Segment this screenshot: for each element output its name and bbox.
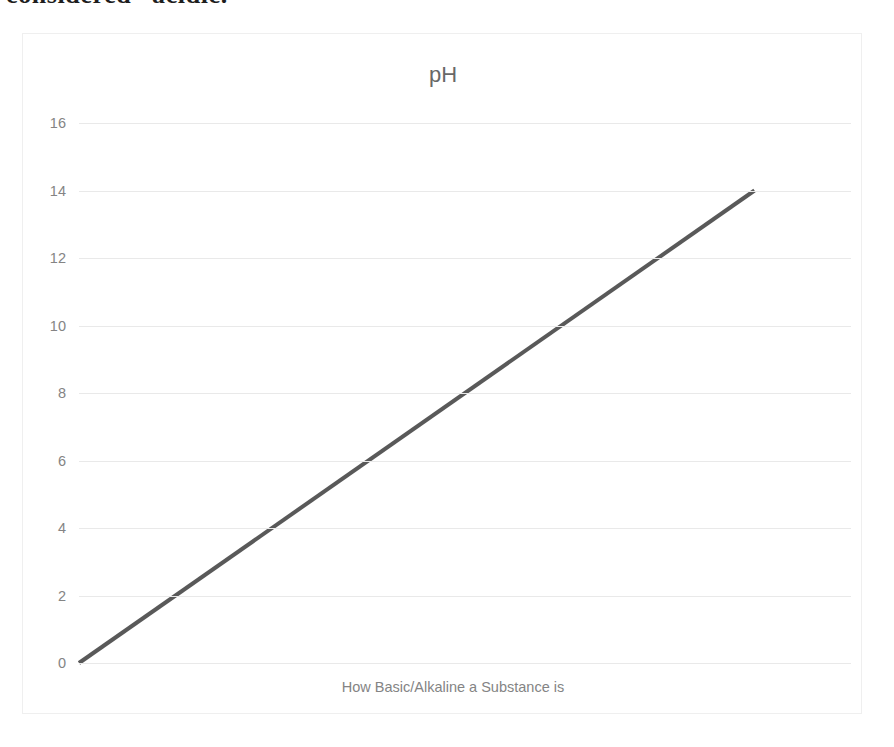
- document-text-line: considered “acidic.”: [6, 0, 241, 10]
- chart-container: pH 0246810121416 How Basic/Alkaline a Su…: [22, 33, 862, 714]
- y-axis-tick-label: 2: [58, 588, 66, 604]
- gridline-y-4: [79, 528, 851, 529]
- x-axis-title-text: How Basic/Alkaline a Substance is: [342, 679, 564, 695]
- chart-title: pH: [23, 62, 863, 88]
- x-axis-title: How Basic/Alkaline a Substance is: [79, 679, 851, 695]
- y-axis-tick-label: 12: [50, 250, 66, 266]
- data-series-pH: [79, 191, 755, 664]
- y-axis-tick-label: 0: [58, 655, 66, 671]
- chart-title-text: pH: [429, 62, 457, 88]
- y-axis-tick-label: 6: [58, 453, 66, 469]
- y-axis-tick-label: 14: [50, 183, 66, 199]
- gridline-y-14: [79, 191, 851, 192]
- y-axis-tick-label: 8: [58, 385, 66, 401]
- y-axis-tick-label: 10: [50, 318, 66, 334]
- gridline-y-2: [79, 596, 851, 597]
- y-axis-tick-label: 4: [58, 520, 66, 536]
- plot-area: 0246810121416: [79, 123, 851, 663]
- gridline-y-8: [79, 393, 851, 394]
- gridline-y-6: [79, 461, 851, 462]
- y-axis-tick-label: 16: [50, 115, 66, 131]
- gridline-y-12: [79, 258, 851, 259]
- document-clipped-text: considered “acidic.”: [0, 0, 894, 11]
- gridline-y-10: [79, 326, 851, 327]
- gridline-y-16: [79, 123, 851, 124]
- gridline-y-0: [79, 663, 851, 664]
